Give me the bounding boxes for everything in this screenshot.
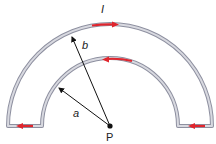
current-loop-diagram: I b a P — [0, 0, 216, 144]
current-arrow-bottom-left — [16, 123, 33, 129]
point-label: P — [106, 131, 113, 143]
inner-radius-label: a — [73, 107, 79, 119]
wire-loop — [8, 24, 212, 126]
point-p-dot — [107, 123, 112, 128]
outer-radius-label: b — [82, 39, 88, 51]
current-arrow-bottom-right — [188, 123, 205, 129]
current-label: I — [101, 3, 104, 15]
